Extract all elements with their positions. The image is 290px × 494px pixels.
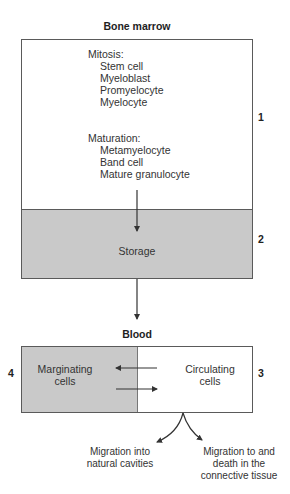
mitosis-header: Mitosis: [88,48,164,60]
circulating-line1: Circulating [175,363,245,375]
outcome-natural-cavities: Migration into natural cavities [80,446,160,470]
circulating-line2: cells [175,375,245,387]
list-item: Myelocyte [100,96,164,108]
outcome-right-line1: Migration to and [194,446,284,458]
mitosis-list: Mitosis: Stem cell Myeloblast Promyelocy… [88,48,164,108]
list-item: Stem cell [100,60,164,72]
maturation-list: Maturation: Metamyelocyte Band cell Matu… [88,132,190,180]
list-item: Band cell [100,156,190,168]
circulating-cells-label: Circulating cells [175,363,245,387]
outcome-left-line1: Migration into [80,446,160,458]
storage-label: Storage [21,245,253,257]
bone-marrow-title: Bone marrow [21,20,253,32]
marginating-line2: cells [30,375,100,387]
arrow-to-natural-cavities [157,413,183,442]
compartment-number-4: 4 [8,367,14,379]
list-item: Promyelocyte [100,84,164,96]
list-item: Myeloblast [100,72,164,84]
compartment-number-1: 1 [258,111,264,123]
marginating-cells-label: Marginating cells [30,363,100,387]
outcome-connective-tissue: Migration to and death in the connective… [194,446,284,482]
storage-box [21,209,253,279]
arrow-to-connective-tissue [183,413,202,440]
compartment-number-2: 2 [258,233,264,245]
outcome-right-line2: death in the [194,458,284,470]
list-item: Mature granulocyte [100,168,190,180]
compartment-number-3: 3 [258,367,264,379]
maturation-header: Maturation: [88,132,190,144]
list-item: Metamyelocyte [100,144,190,156]
outcome-left-line2: natural cavities [80,458,160,470]
outcome-right-line3: connective tissue [194,470,284,482]
marginating-line1: Marginating [30,363,100,375]
blood-title: Blood [87,328,187,340]
